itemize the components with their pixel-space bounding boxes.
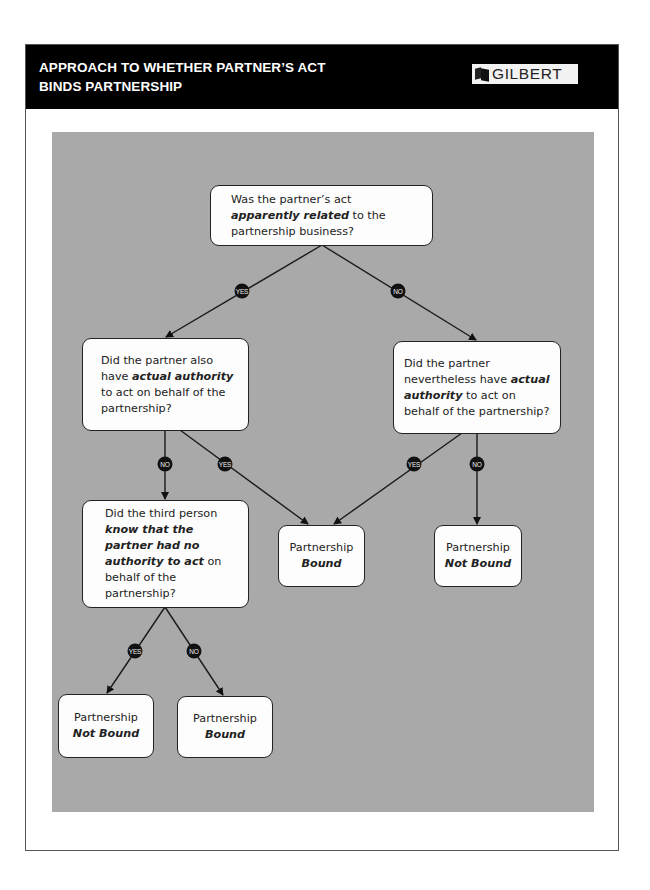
result-not-bound-right: Partnership Not Bound [434, 525, 522, 587]
header-bar: APPROACH TO WHETHER PARTNER’S ACT BINDS … [26, 45, 618, 109]
emphasis-text: apparently related [231, 209, 349, 222]
question-actual-authority-also: Did the partner also have actual authori… [82, 338, 249, 431]
question-apparently-related: Was the partner’s act apparently related… [210, 185, 433, 246]
yes-badge: YES [407, 457, 422, 472]
result-bound-bottom: Partnership Bound [177, 696, 273, 758]
question-third-person-knowledge: Did the third person know that the partn… [82, 500, 249, 608]
no-badge: NO [187, 644, 202, 659]
emphasis-text: know that the partner had no authority t… [105, 523, 204, 568]
yes-badge: YES [128, 644, 143, 659]
yes-badge: YES [235, 284, 250, 299]
question-actual-authority-nevertheless: Did the partner nevertheless have actual… [393, 341, 561, 434]
gilbert-logo: GILBERT [472, 64, 578, 84]
emphasis-text: actual authority [132, 370, 233, 383]
no-badge: NO [391, 284, 406, 299]
no-badge: NO [158, 457, 173, 472]
yes-badge: YES [218, 457, 233, 472]
result-not-bound-bottom: Partnership Not Bound [58, 694, 154, 758]
page-title: APPROACH TO WHETHER PARTNER’S ACT BINDS … [39, 58, 326, 96]
book-icon [475, 67, 490, 81]
no-badge: NO [470, 457, 485, 472]
logo-text: GILBERT [492, 64, 562, 84]
result-bound-center: Partnership Bound [278, 525, 365, 587]
